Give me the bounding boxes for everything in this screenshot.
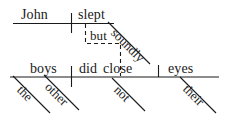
word-but-conjunction: but: [90, 29, 107, 42]
sentence-diagram: John slept but boys did close eyes sound…: [0, 0, 231, 121]
word-close: close: [103, 62, 132, 76]
word-did: did: [79, 62, 97, 76]
word-slept: slept: [78, 8, 105, 22]
word-eyes: eyes: [168, 62, 193, 76]
word-boys: boys: [30, 62, 57, 76]
word-john: John: [21, 8, 48, 22]
